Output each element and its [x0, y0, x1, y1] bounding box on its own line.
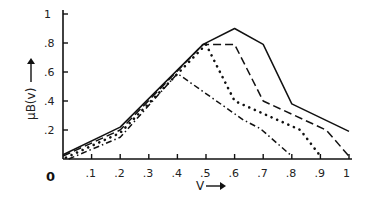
- x-tick-label: .9: [314, 167, 325, 180]
- x-tick-label: .4: [171, 167, 182, 180]
- series-line-solid: [63, 29, 349, 155]
- x-tick-label: 1: [343, 167, 350, 180]
- x-tick-label: .7: [257, 167, 268, 180]
- series-line-dotted: [66, 44, 321, 157]
- y-axis-title: μB(v): [24, 58, 38, 120]
- x-tick-label: .2: [114, 167, 125, 180]
- y-tick-label: .8: [44, 37, 55, 50]
- y-tick-label: .2: [44, 124, 55, 137]
- y-tick-label: 1: [44, 8, 51, 21]
- series-line-dash-dot: [69, 74, 292, 160]
- x-axis-title-text: V: [196, 179, 205, 193]
- y-tick-label: .6: [44, 66, 55, 79]
- y-axis-arrowhead-icon: [27, 58, 35, 64]
- x-tick-label: .1: [86, 167, 97, 180]
- x-tick-label: .8: [286, 167, 297, 180]
- x-tick-label: .3: [143, 167, 154, 180]
- x-tick-label: .6: [229, 167, 240, 180]
- membership-chart: .2.4.6.81 .1.2.3.4.5.6.7.8.91 0 V μB(v): [0, 0, 374, 197]
- x-axis-title: V: [196, 179, 226, 193]
- y-axis-title-text: μB(v): [24, 88, 38, 120]
- origin-label: 0: [46, 169, 55, 184]
- x-axis-arrowhead-icon: [220, 182, 226, 190]
- axes: [63, 10, 352, 159]
- y-tick-label: .4: [44, 95, 55, 108]
